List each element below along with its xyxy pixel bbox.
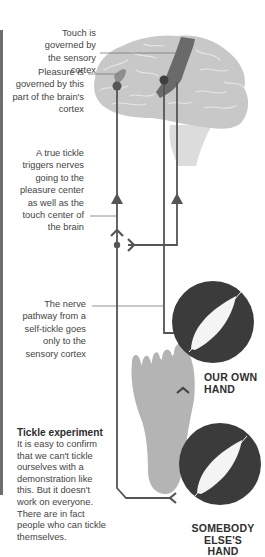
pleasure-label: Pleasure is governed by this part of the…	[10, 66, 84, 116]
own-hand-circle	[172, 281, 254, 363]
sidebar-title: Tickle experiment	[17, 427, 109, 439]
own-hand-label: OUR OWN HAND	[204, 372, 260, 395]
tickle-experiment-box: Tickle experiment It is easy to confirm …	[17, 427, 109, 543]
true-tickle-label: A true tickle triggers nerves going to t…	[16, 147, 84, 234]
sidebar-body: It is easy to confirm that we can't tick…	[17, 439, 109, 543]
nerve-pathway-label: The nerve pathway from a self-tickle goe…	[14, 298, 86, 360]
else-hand-label: SOMEBODY ELSE'S HAND	[187, 523, 259, 557]
else-hand-circle	[179, 423, 261, 505]
